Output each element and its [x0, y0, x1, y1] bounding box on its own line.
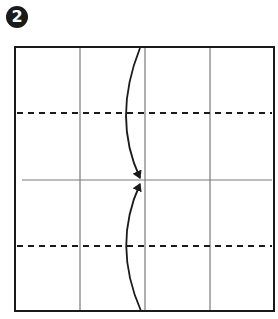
vertical-creases: [80, 47, 210, 311]
fold-diagram: [0, 0, 278, 319]
bottom-fold-arrow-icon: [126, 184, 141, 311]
